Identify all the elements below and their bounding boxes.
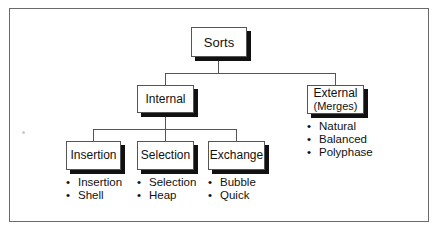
external-items-list: Natural Balanced Polyphase	[306, 120, 373, 159]
node-selection: Selection	[137, 141, 194, 170]
scan-artifact	[22, 131, 25, 134]
connector-to-internal	[165, 73, 166, 85]
node-insertion: Insertion	[66, 141, 121, 170]
list-item: Heap	[136, 189, 196, 202]
exchange-items-list: Bubble Quick	[207, 176, 256, 202]
connector-internal-down	[165, 112, 166, 129]
list-item: Natural	[306, 120, 373, 133]
list-item: Quick	[207, 189, 256, 202]
node-exchange: Exchange	[208, 141, 265, 170]
node-exchange-label: Exchange	[210, 149, 263, 162]
list-item: Balanced	[306, 133, 373, 146]
node-sorts-label: Sorts	[204, 36, 234, 49]
node-internal: Internal	[137, 85, 194, 113]
node-insertion-label: Insertion	[70, 149, 116, 162]
list-item: Polyphase	[306, 146, 373, 159]
node-sorts: Sorts	[191, 27, 247, 57]
connector-to-exchange	[236, 129, 237, 141]
list-item: Shell	[65, 189, 122, 202]
connector-to-insertion	[93, 129, 94, 141]
node-selection-label: Selection	[141, 149, 190, 162]
list-item: Selection	[136, 176, 196, 189]
connector-root-down	[218, 56, 219, 73]
insertion-items-list: Insertion Shell	[65, 176, 122, 202]
list-item: Bubble	[207, 176, 256, 189]
node-external-label: External	[313, 87, 357, 100]
connector-level1-horizontal	[165, 73, 336, 74]
connector-to-selection	[165, 129, 166, 141]
node-internal-label: Internal	[145, 93, 185, 106]
list-item: Insertion	[65, 176, 122, 189]
connector-to-external	[335, 73, 336, 85]
selection-items-list: Selection Heap	[136, 176, 196, 202]
node-external: External (Merges)	[307, 85, 364, 114]
node-external-sublabel: (Merges)	[313, 100, 357, 113]
